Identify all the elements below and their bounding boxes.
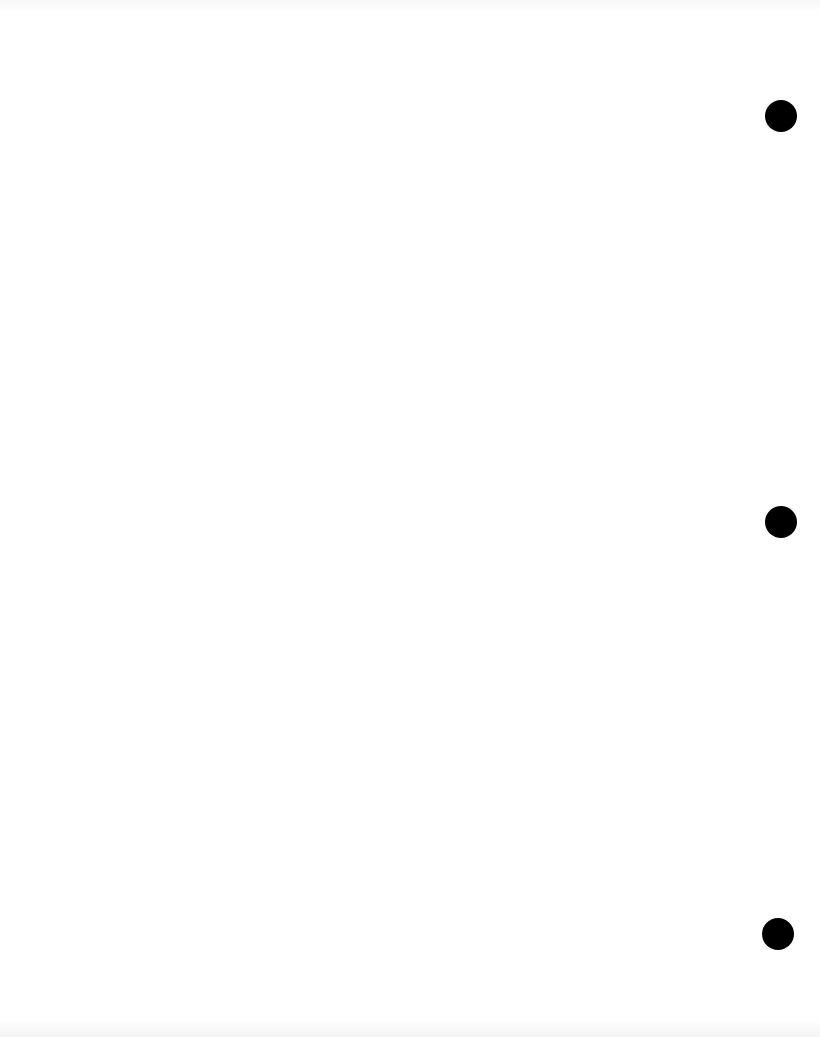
punch-hole-middle: [765, 506, 797, 538]
punch-hole-bottom: [762, 918, 794, 950]
blank-page: [0, 0, 820, 1037]
punch-hole-top: [765, 100, 797, 132]
